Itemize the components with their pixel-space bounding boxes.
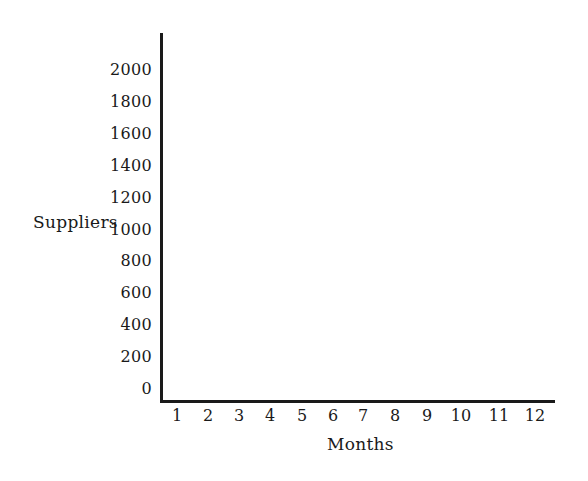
y-tick-label: 2000 xyxy=(86,60,152,80)
x-tick-label: 2 xyxy=(193,406,223,426)
chart: Suppliers Months 02004006008001000120014… xyxy=(0,0,588,481)
y-tick-label: 1400 xyxy=(86,156,152,176)
x-tick-label: 8 xyxy=(380,406,410,426)
x-axis-title: Months xyxy=(327,434,394,454)
y-tick-label: 200 xyxy=(86,347,152,367)
x-tick-label: 1 xyxy=(162,406,192,426)
y-tick-label: 1000 xyxy=(86,220,152,240)
y-tick-label: 400 xyxy=(86,315,152,335)
y-tick-label: 1800 xyxy=(86,92,152,112)
y-tick-label: 1200 xyxy=(86,188,152,208)
y-tick-label: 1600 xyxy=(86,124,152,144)
plot-area xyxy=(163,33,555,400)
x-tick-label: 5 xyxy=(287,406,317,426)
y-tick-label: 0 xyxy=(86,379,152,399)
x-tick-label: 7 xyxy=(348,406,378,426)
x-tick-label: 12 xyxy=(520,406,550,426)
x-tick-label: 3 xyxy=(224,406,254,426)
x-tick-label: 9 xyxy=(412,406,442,426)
y-axis-line xyxy=(160,33,163,403)
y-tick-label: 600 xyxy=(86,283,152,303)
x-tick-label: 10 xyxy=(446,406,476,426)
y-tick-label: 800 xyxy=(86,251,152,271)
x-tick-label: 11 xyxy=(484,406,514,426)
x-tick-label: 4 xyxy=(255,406,285,426)
x-tick-label: 6 xyxy=(318,406,348,426)
x-axis-line xyxy=(160,400,555,403)
